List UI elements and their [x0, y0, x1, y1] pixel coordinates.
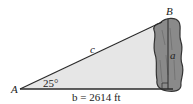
side-c-label: c — [90, 43, 95, 55]
side-b-label: b = 2614 ft — [72, 91, 121, 103]
triangle-diagram: A B c a 25° b = 2614 ft — [0, 0, 193, 104]
vertex-a-label: A — [10, 83, 18, 95]
angle-label: 25° — [43, 77, 58, 89]
vertex-b-label: B — [166, 5, 173, 17]
side-a-label: a — [170, 49, 176, 61]
